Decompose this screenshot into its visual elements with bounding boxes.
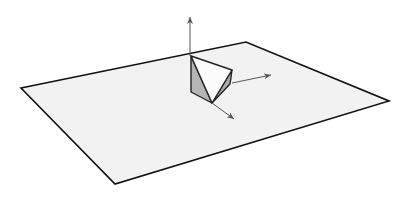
diagram-canvas bbox=[0, 0, 401, 200]
diagram-svg bbox=[0, 0, 401, 200]
